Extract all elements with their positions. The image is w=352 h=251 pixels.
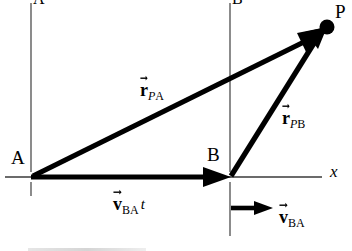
point-a-label: A (11, 148, 25, 167)
frame-b-top-label: B (232, 0, 243, 7)
point-b-label: B (207, 145, 220, 164)
physics-vector-diagram: A B A B P x r PA r PB (0, 0, 352, 251)
vector-label-vba-t: v BA t (113, 189, 145, 213)
vector-symbol-r-pb: r (282, 103, 290, 127)
vector-symbol-vba: v (279, 202, 288, 226)
vector-subscript-vba-t-roman: BA (122, 203, 139, 217)
frame-a-top-label: A (33, 0, 45, 7)
vector-subscript-r-pa-roman: A (155, 89, 164, 103)
vector-symbol-r-pb-glyph: r (282, 108, 290, 128)
vector-label-vba: v BA (279, 202, 305, 226)
vector-label-r-pb: r PB (282, 103, 305, 127)
vector-vba-arrowhead (254, 201, 273, 215)
vector-subscript-vba-roman: BA (288, 216, 305, 230)
point-p-label: P (335, 2, 346, 21)
vector-r-pa-shaft (33, 38, 312, 176)
vector-symbol-r-pa: r (140, 75, 148, 99)
x-axis-label: x (330, 163, 338, 180)
vector-label-r-pa: r PA (140, 75, 164, 99)
vector-subscript-vba: BA (288, 217, 305, 229)
vector-subscript-r-pa: PA (148, 90, 164, 102)
vector-symbol-vba-t: v (113, 189, 122, 213)
vector-symbol-r-pa-glyph: r (140, 80, 148, 100)
point-p-marker (320, 20, 335, 35)
vector-subscript-vba-t: BA (122, 204, 139, 216)
vector-symbol-vba-glyph: v (279, 207, 288, 227)
vector-symbol-vba-t-glyph: v (113, 194, 122, 214)
vector-subscript-r-pb: PB (290, 118, 305, 130)
vector-subscript-r-pb-roman: B (297, 117, 305, 131)
vector-postfix-time: t (139, 197, 145, 212)
vector-vba-t-arrowhead (203, 167, 231, 187)
